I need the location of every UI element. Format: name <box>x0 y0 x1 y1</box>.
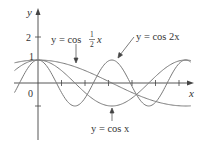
annotation-cos-half-x-var: x <box>96 34 102 45</box>
arrow-down-icon <box>74 58 78 63</box>
cosine-graph: y x 0 2 1 y = cos 1 2 x y = cos 2x y = c… <box>0 0 201 145</box>
x-axis-arrow-icon <box>187 81 194 86</box>
annotation-frac-den: 2 <box>90 40 94 49</box>
arrow-up-icon <box>110 108 114 113</box>
annotation-cos-x: y = cos x <box>91 123 130 134</box>
arrow-down-left-icon <box>118 53 123 59</box>
tick-label-1: 1 <box>29 51 34 62</box>
origin-label: 0 <box>28 88 33 99</box>
annotation-frac-num: 1 <box>90 30 94 39</box>
annotation-cos-half-prefix: y = cos <box>51 34 81 45</box>
y-axis-label: y <box>26 6 32 18</box>
tick-label-2: 2 <box>26 32 31 43</box>
y-axis-arrow-icon <box>36 8 41 15</box>
x-axis-label: x <box>188 87 194 99</box>
annotation-cos-2x: y = cos 2x <box>136 31 180 42</box>
annotation-cos-half-x: y = cos 1 2 x <box>51 30 102 49</box>
